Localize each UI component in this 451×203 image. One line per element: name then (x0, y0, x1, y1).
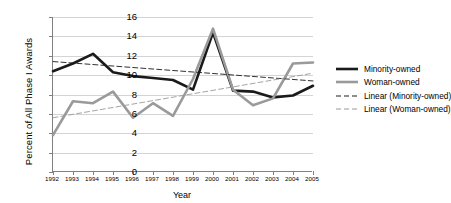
legend-label: Woman-owned (364, 78, 420, 86)
series-line (53, 29, 313, 136)
y-tick-label: 16 (97, 12, 137, 22)
series-layer (53, 17, 313, 172)
series-line (53, 62, 313, 81)
legend-label: Linear (Minority-owned) (364, 92, 451, 100)
series-line (53, 33, 313, 98)
legend-item[interactable]: Linear (Minority-owned) (336, 89, 451, 103)
y-axis-title: Percent of All Phase I Awards (23, 22, 34, 182)
legend-item[interactable]: Linear (Woman-owned) (336, 103, 451, 117)
x-axis-title: Year (52, 190, 312, 200)
legend-swatch-icon (336, 91, 358, 101)
y-tick-label: 10 (97, 70, 137, 80)
legend-label: Linear (Woman-owned) (364, 105, 451, 113)
chart-legend: Minority-ownedWoman-ownedLinear (Minorit… (336, 62, 451, 116)
plot-area (52, 17, 312, 172)
legend-swatch-icon (336, 64, 358, 74)
y-tick-label: 4 (97, 128, 137, 138)
y-tick-label: 2 (97, 148, 137, 158)
y-tick-label: 14 (97, 31, 137, 41)
y-tick-label: 12 (97, 51, 137, 61)
y-tick-label: 8 (97, 90, 137, 100)
y-tick-label: 6 (97, 109, 137, 119)
x-tick-label: 2005 (299, 176, 325, 182)
legend-swatch-icon (336, 104, 358, 114)
legend-label: Minority-owned (364, 65, 420, 73)
chart-container: Percent of All Phase I Awards 0246810121… (0, 0, 451, 203)
legend-item[interactable]: Woman-owned (336, 76, 451, 90)
legend-item[interactable]: Minority-owned (336, 62, 451, 76)
legend-swatch-icon (336, 77, 358, 87)
